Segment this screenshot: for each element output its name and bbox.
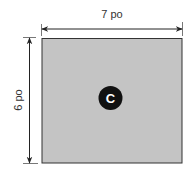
center-marker-label: C xyxy=(106,91,116,106)
width-label: 7 po xyxy=(101,8,122,20)
height-label: 6 po xyxy=(12,89,24,110)
rectangle-diagram: 7 po 6 po C xyxy=(0,0,194,174)
